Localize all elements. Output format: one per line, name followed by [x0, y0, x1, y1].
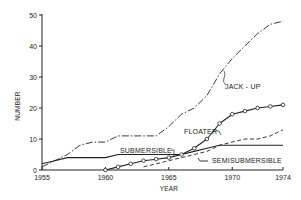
data-point-marker: [154, 157, 158, 161]
semisubmersible-leader-line: [198, 158, 208, 161]
x-tick-label: 1970: [224, 174, 240, 181]
data-point-marker: [180, 153, 184, 157]
data-point-marker: [104, 168, 108, 172]
data-point-marker: [218, 122, 222, 126]
y-tick-label: 0: [33, 167, 37, 174]
y-axis-title: NUMBER: [14, 91, 21, 120]
x-ticks: 19551960196519701974: [34, 167, 291, 181]
data-point-marker: [142, 159, 146, 163]
x-tick-label: 1974: [275, 174, 291, 181]
y-ticks: 01020304050: [29, 12, 42, 174]
y-tick-label: 40: [29, 43, 37, 50]
data-point-marker: [256, 106, 260, 110]
data-point-marker: [192, 147, 196, 151]
y-tick-label: 50: [29, 12, 37, 19]
annotation-jackup: JACK - UP: [225, 83, 261, 90]
data-point-marker: [230, 112, 234, 116]
data-point-marker: [243, 109, 247, 113]
y-tick-label: 30: [29, 74, 37, 81]
data-point-marker: [167, 156, 171, 160]
annotation-submersible: SUBMERSIBLE: [120, 147, 172, 154]
y-tick-label: 20: [29, 105, 37, 112]
data-point-marker: [116, 165, 120, 169]
x-axis-title: YEAR: [160, 185, 179, 192]
data-point-marker: [269, 105, 273, 109]
x-tick-label: 1965: [161, 174, 177, 181]
x-tick-label: 1960: [98, 174, 114, 181]
line-chart: 01020304050 19551960196519701974 NUMBER …: [0, 0, 301, 200]
annotation-floater: FLOATER: [184, 128, 217, 135]
x-tick-label: 1955: [34, 174, 50, 181]
data-point-marker: [281, 103, 285, 107]
data-point-marker: [129, 162, 133, 166]
y-tick-label: 10: [29, 136, 37, 143]
data-point-marker: [205, 137, 209, 141]
annotation-semisubmersible: SEMISUBMERSIBLE: [212, 157, 282, 164]
